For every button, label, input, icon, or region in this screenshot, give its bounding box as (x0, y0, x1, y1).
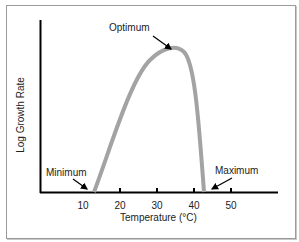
x-tick-label-40: 40 (188, 200, 199, 211)
maximum-arrow-icon (212, 178, 232, 189)
growth-curve (94, 48, 204, 192)
maximum-annotation: Maximum (215, 165, 258, 176)
y-axis-label-text: Log Growth Rate (15, 77, 26, 153)
x-tick-label-30: 30 (151, 200, 162, 211)
minimum-arrow-icon (73, 179, 87, 189)
chart-plot (0, 0, 299, 242)
optimum-arrow-icon (153, 36, 171, 49)
x-tick-label-20: 20 (114, 200, 125, 211)
minimum-annotation: Minimum (46, 167, 87, 178)
x-axis-label: Temperature (°C) (120, 212, 197, 223)
optimum-annotation: Optimum (109, 22, 150, 33)
y-axis-label: Log Growth Rate (10, 105, 30, 125)
x-tick-label-10: 10 (77, 200, 88, 211)
x-tick-label-50: 50 (225, 200, 236, 211)
